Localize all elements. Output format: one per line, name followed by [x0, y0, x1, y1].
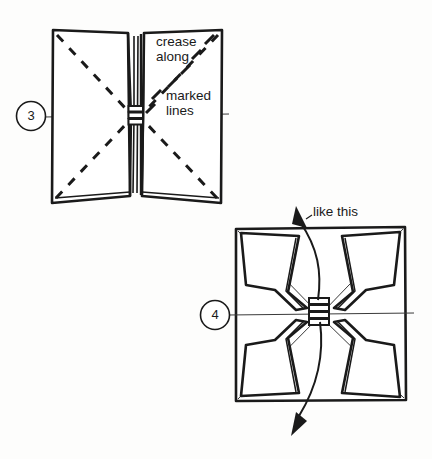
step3-center-knot [129, 106, 144, 125]
step4-like-this-leader [306, 215, 312, 219]
label-lines: lines [166, 103, 194, 118]
origami-diagram-page: crease along marked lines like this 3 4 [0, 0, 432, 459]
step-3-number: 3 [16, 101, 46, 131]
origami-diagram-svg [0, 0, 432, 459]
label-crease: crease [156, 34, 197, 49]
label-marked: marked [166, 88, 211, 103]
step-3-figure [44, 30, 229, 203]
step3-left-panel [52, 30, 130, 203]
label-like-this: like this [313, 204, 358, 219]
label-along: along [156, 49, 189, 64]
step-4-number: 4 [200, 300, 230, 330]
step4-center-knot [309, 298, 329, 325]
step-4-figure [228, 206, 414, 436]
